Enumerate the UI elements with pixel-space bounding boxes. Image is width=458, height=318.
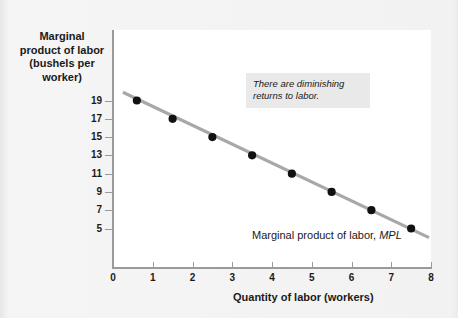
y-tick-label-13: 13 xyxy=(80,149,102,160)
x-tick-label-3: 3 xyxy=(222,272,242,283)
x-tick-8 xyxy=(431,262,432,269)
y-axis-title: Marginal product of labor (bushels per w… xyxy=(14,30,110,84)
y-tick-label-9: 9 xyxy=(80,186,102,197)
x-tick-label-7: 7 xyxy=(381,272,401,283)
x-tick-label-6: 6 xyxy=(342,272,362,283)
y-tick-9 xyxy=(105,192,113,193)
x-tick-5 xyxy=(312,262,313,269)
curve-label: Marginal product of labor, MPL xyxy=(252,229,402,241)
y-tick-17 xyxy=(105,119,113,120)
curve-label-symbol: MPL xyxy=(379,229,402,241)
diminishing-returns-annotation: There are diminishing returns to labor. xyxy=(246,73,370,108)
y-tick-7 xyxy=(105,210,113,211)
y-tick-label-11: 11 xyxy=(80,168,102,179)
x-tick-7 xyxy=(391,262,392,269)
x-tick-label-2: 2 xyxy=(183,272,203,283)
y-tick-15 xyxy=(105,137,113,138)
y-tick-label-7: 7 xyxy=(80,204,102,215)
y-tick-label-5: 5 xyxy=(80,223,102,234)
y-axis-line xyxy=(112,30,114,269)
x-tick-4 xyxy=(272,262,273,269)
y-tick-label-19: 19 xyxy=(80,95,102,106)
x-tick-1 xyxy=(153,262,154,269)
y-tick-13 xyxy=(105,155,113,156)
x-axis-title: Quantity of labor (workers) xyxy=(233,291,374,303)
x-tick-3 xyxy=(232,262,233,269)
curve-label-text: Marginal product of labor, xyxy=(252,229,376,241)
y-tick-label-17: 17 xyxy=(80,113,102,124)
x-tick-label-4: 4 xyxy=(262,272,282,283)
x-tick-2 xyxy=(193,262,194,269)
x-tick-label-1: 1 xyxy=(143,272,163,283)
y-tick-5 xyxy=(105,229,113,230)
x-tick-label-0: 0 xyxy=(103,272,123,283)
y-tick-19 xyxy=(105,101,113,102)
y-tick-label-15: 15 xyxy=(80,131,102,142)
figure-page: Marginal product of labor (bushels per w… xyxy=(0,0,458,318)
y-tick-11 xyxy=(105,174,113,175)
x-tick-6 xyxy=(352,262,353,269)
x-tick-label-5: 5 xyxy=(302,272,322,283)
x-tick-label-8: 8 xyxy=(421,272,441,283)
